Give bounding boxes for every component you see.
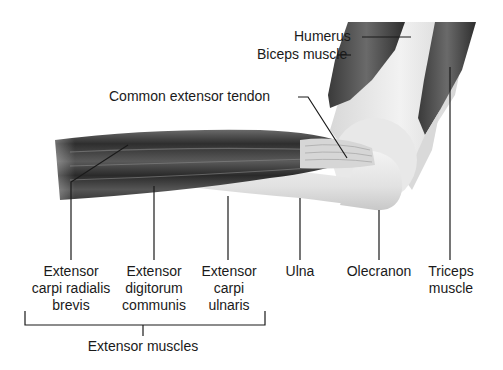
label-common-extensor-tendon: Common extensor tendon	[109, 88, 270, 105]
label-humerus: Humerus	[294, 28, 351, 45]
label-extensor-muscles-group: Extensor muscles	[73, 338, 213, 355]
label-extensor-carpi-ulnaris: Extensor carpi ulnaris	[196, 263, 262, 314]
elbow-illustration	[0, 0, 503, 370]
label-olecranon: Olecranon	[340, 263, 418, 280]
label-triceps-muscle: Triceps muscle	[425, 263, 477, 297]
label-extensor-carpi-radialis-brevis: Extensor carpi radialis brevis	[28, 263, 114, 314]
label-extensor-digitorum-communis: Extensor digitorum communis	[118, 263, 190, 314]
label-biceps-muscle: Biceps muscle	[257, 46, 347, 63]
label-ulna: Ulna	[280, 263, 320, 280]
